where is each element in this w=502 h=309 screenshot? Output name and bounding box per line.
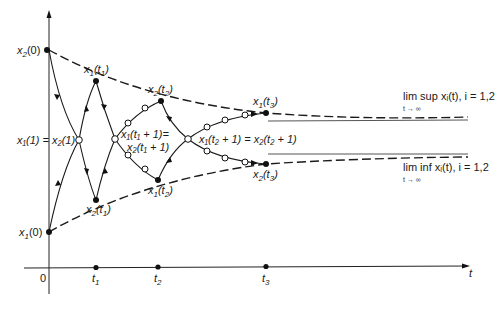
- x2-t2-label: x2(t2): [147, 83, 173, 98]
- x1-t1-label: x1(t1): [83, 63, 109, 78]
- tick-t2-label: t2: [154, 272, 162, 287]
- x1-0-point: [46, 229, 52, 235]
- open-point: [242, 159, 248, 165]
- x1-t3-point: [263, 110, 269, 116]
- open-point: [142, 105, 148, 111]
- eq3-point: [185, 136, 192, 143]
- axes: [24, 10, 470, 294]
- x2-t2-point: [158, 98, 164, 104]
- tick-t1-dot: [93, 265, 98, 270]
- arrow-icon: [55, 180, 61, 186]
- liminf-subscript: t → ∞: [403, 176, 421, 183]
- eq2-label-line2: x₂(t₁ + 1): [126, 141, 170, 153]
- arrow-icon: [84, 168, 89, 175]
- x2-0-point: [44, 47, 50, 53]
- limsup-label: lim sup xᵢ(t), i = 1,2: [403, 90, 495, 102]
- arrow-icon: [84, 105, 89, 112]
- open-point: [142, 166, 148, 172]
- convergence-diagram: 0 t t1 t2 t3: [0, 0, 502, 309]
- arrow-icon: [54, 94, 60, 100]
- arrow-icon: [101, 104, 107, 110]
- eq2-label-line1: x₁(t₁ + 1)=: [120, 128, 169, 140]
- origin-label: 0: [40, 272, 46, 284]
- vertical-axis-arrow-icon: [47, 10, 52, 18]
- open-point: [222, 117, 228, 123]
- x1-t2-label: x1(t2): [147, 184, 173, 199]
- arrow-icon: [166, 157, 172, 163]
- x1-t1-point: [93, 78, 99, 84]
- open-point: [204, 124, 210, 130]
- open-point: [222, 155, 228, 161]
- eq3-label: x₁(t₂ + 1) = x₂(t₂ + 1): [198, 133, 297, 145]
- trajectory-x1t1-to-eq2: [96, 81, 115, 139]
- tick-t1-label: t1: [92, 272, 100, 287]
- x2-t3-label: x2(t3): [252, 168, 278, 183]
- x2-t3-point: [263, 161, 269, 167]
- arrow-icon: [251, 160, 258, 166]
- x1-t2-point: [155, 177, 161, 183]
- arrow-icon: [102, 168, 108, 174]
- time-axis: [24, 266, 466, 268]
- time-axis-label: t: [469, 267, 473, 279]
- tick-t3-dot: [263, 264, 268, 269]
- x1-0-label: x1(0): [18, 226, 42, 241]
- eq1-point: [76, 137, 83, 144]
- limsup-line: [268, 120, 468, 121]
- x2-t1-label: x2(t1): [85, 203, 111, 218]
- liminf-label: lim inf xᵢ(t), i = 1,2: [403, 161, 489, 173]
- limsup-subscript: t → ∞: [403, 105, 421, 112]
- eq1-label: x₁(1) = x₂(1): [16, 134, 75, 146]
- x1-t3-label: x1(t3): [252, 95, 278, 110]
- open-point: [242, 112, 248, 118]
- open-point: [125, 120, 131, 126]
- eq2-point: [112, 136, 119, 143]
- x2-0-label: x2(0): [16, 44, 40, 59]
- tick-t2-dot: [155, 264, 160, 269]
- tick-t3-label: t3: [262, 272, 270, 287]
- open-point: [204, 148, 210, 154]
